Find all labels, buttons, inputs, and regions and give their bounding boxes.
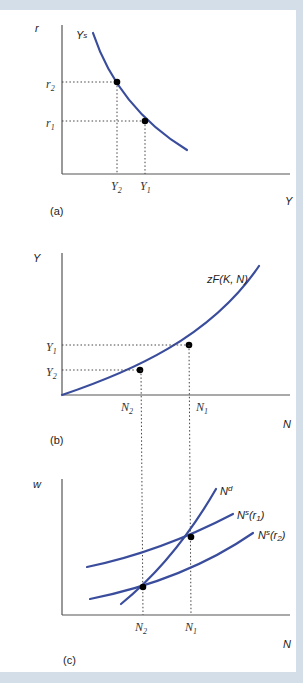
- tick-n2-c: N2: [134, 620, 147, 636]
- panel-b-y-axis-label: Y: [33, 252, 41, 264]
- tick-n1-b: N1: [195, 400, 208, 416]
- tick-y2: Y2: [111, 179, 122, 195]
- panel-c-tag: (c): [63, 654, 76, 666]
- equilibrium-point-n2: [140, 584, 147, 591]
- tick-r2: r2: [46, 77, 55, 93]
- tick-y1: Y1: [140, 179, 151, 195]
- panel-c-x-axis-label: N: [283, 638, 291, 650]
- production-function-label: zF(K, N): [206, 273, 248, 285]
- panel-b: Y N zF(K, N) Y1 Y2 N2 N1 (b): [33, 252, 291, 446]
- panel-c: w N Nd Ns(r1) Ns(r2) N2 N1 (c): [33, 478, 291, 666]
- panel-a-x-axis-label: Y: [285, 195, 293, 207]
- labor-demand-label: Nd: [220, 484, 233, 497]
- tick-r1: r1: [46, 116, 55, 132]
- tick-y1-b: Y1: [46, 340, 57, 356]
- output-supply-curve: [93, 33, 187, 150]
- production-function-curve: [62, 266, 259, 395]
- panel-a-y-axis-label: r: [35, 22, 40, 34]
- tick-y2-b: Y2: [46, 365, 57, 381]
- n1-vertical-guide: [189, 345, 191, 615]
- panel-b-tag: (b): [50, 434, 63, 446]
- tick-n2-b: N2: [120, 400, 133, 416]
- panel-c-y-axis-label: w: [33, 478, 42, 490]
- point-y1-r1: [142, 118, 149, 125]
- panel-a: r Y Ys r2 r1 Y2 Y1 (a): [35, 22, 293, 217]
- output-supply-label: Ys: [76, 29, 87, 41]
- tick-n1-c: N1: [184, 620, 197, 636]
- labor-demand-curve: [121, 489, 216, 604]
- point-y2-r2: [114, 79, 121, 86]
- n2-vertical-guide: [141, 370, 143, 615]
- panel-a-tag: (a): [50, 205, 63, 217]
- labor-supply-r1-label: Ns(r1): [237, 508, 265, 523]
- labor-supply-r2-label: Ns(r2): [258, 528, 286, 543]
- panel-b-x-axis-label: N: [283, 418, 291, 430]
- equilibrium-point-n1: [188, 534, 195, 541]
- diagram-canvas: r Y Ys r2 r1 Y2 Y1 (a) Y N zF(K, N) Y1 Y…: [0, 0, 303, 683]
- point-n2-y2: [137, 367, 144, 374]
